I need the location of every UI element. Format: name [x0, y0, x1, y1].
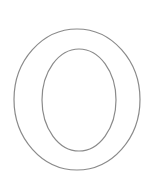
letter-o-inner-counter-outline: [42, 49, 116, 151]
outlined-letter-o-icon: [0, 0, 146, 182]
